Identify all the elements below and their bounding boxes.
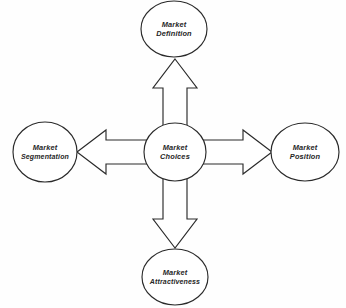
market-choices-diagram: Market Definition Market Position Market… — [0, 0, 346, 308]
node-market-attractiveness[interactable]: Market Attractiveness — [142, 249, 208, 305]
node-market-position[interactable]: Market Position — [271, 123, 339, 181]
node-market-definition[interactable]: Market Definition — [141, 1, 207, 57]
node-market-position-label-line1: Market — [293, 143, 318, 152]
node-market-choices-label-line1: Market — [163, 143, 188, 152]
node-market-attractiveness-label-line2: Attractiveness — [149, 278, 200, 285]
node-market-definition-label-line1: Market — [162, 20, 187, 29]
diagram-canvas: Market Definition Market Position Market… — [0, 0, 346, 308]
node-market-definition-label-line2: Definition — [156, 29, 192, 38]
node-market-segmentation-label-line1: Market — [33, 143, 58, 152]
node-market-attractiveness-shape — [142, 249, 208, 305]
node-market-choices-label-line2: Choices — [160, 152, 190, 161]
node-market-choices[interactable]: Market Choices — [144, 123, 206, 181]
node-market-attractiveness-label-line1: Market — [163, 268, 188, 277]
node-market-position-label-line2: Position — [290, 152, 321, 161]
node-market-segmentation[interactable]: Market Segmentation — [13, 122, 77, 182]
node-market-segmentation-shape — [13, 122, 77, 182]
node-market-segmentation-label-line2: Segmentation — [21, 153, 69, 161]
